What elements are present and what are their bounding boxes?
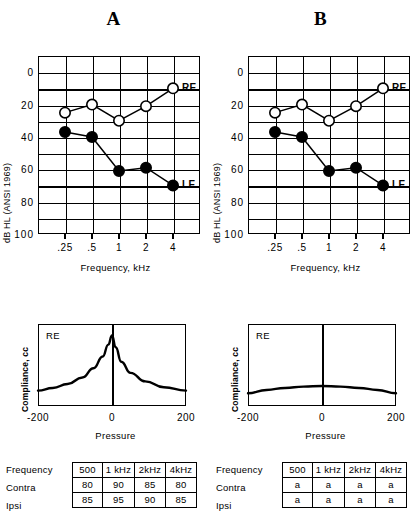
audiogram-data-layer (0, 46, 209, 276)
audiogram-point-le (351, 162, 361, 172)
reflex-row-label: Contra (6, 482, 36, 493)
reflex-cell-ipsi: 95 (103, 493, 135, 508)
audiogram-point-le (87, 132, 97, 142)
reflex-header-cell: 500 (283, 463, 313, 478)
audiogram-point-re (324, 116, 334, 126)
reflex-cell-ipsi: a (313, 493, 345, 508)
reflex-cell-contra: 85 (135, 478, 166, 493)
reflex-row-label: Ipsi (216, 500, 232, 511)
audiogram-point-le (141, 162, 151, 172)
reflex-cell-contra: 80 (73, 478, 103, 493)
reflex-header-cell: 4kHz (376, 463, 407, 478)
audiogram-point-re (378, 83, 388, 93)
audiogram-point-re (168, 83, 178, 93)
audiogram-point-le (297, 132, 307, 142)
tympanogram-x-tick: 0 (319, 412, 325, 423)
reflex-table-body: 5001 kHz2kHz4kHz8090858085959085 (73, 463, 197, 508)
reflex-cell-contra: a (345, 478, 376, 493)
panel-a: AdB HL (ANSI 1969)020406080100.25.5124Fr… (0, 0, 209, 529)
reflex-table: 5001 kHz2kHz4kHzaaaaaaaa (282, 462, 407, 508)
audiogram-point-le (114, 166, 124, 176)
audiogram-point-re (351, 101, 361, 111)
tympanogram-x-axis-label: Pressure (0, 430, 209, 441)
reflex-cell-contra: a (283, 478, 313, 493)
panel-title-b: B (210, 8, 419, 30)
audiogram-data-layer (210, 46, 419, 276)
reflex-table-row: 85959085 (73, 493, 197, 508)
audiogram-re-label: RE (392, 82, 407, 93)
reflex-table-a: FrequencyContraIpsi5001 kHz2kHz4kHz80908… (0, 462, 209, 524)
tympanogram-x-tick: 200 (177, 412, 195, 423)
reflex-cell-ipsi: a (376, 493, 407, 508)
reflex-header-cell: 4kHz (166, 463, 197, 478)
audiogram-point-re (270, 107, 280, 117)
tympanogram-curve (38, 335, 186, 390)
audiogram-point-re (141, 101, 151, 111)
tympanogram-x-axis-label: Pressure (210, 430, 419, 441)
reflex-header-cell: 1 kHz (103, 463, 135, 478)
reflex-cell-ipsi: 85 (73, 493, 103, 508)
figure-root: AdB HL (ANSI 1969)020406080100.25.5124Fr… (0, 0, 419, 529)
reflex-row-label: Ipsi (6, 500, 22, 511)
reflex-table-header-row: 5001 kHz2kHz4kHz (73, 463, 197, 478)
reflex-table-row: aaaa (283, 478, 407, 493)
tympanogram-x-tick: -200 (27, 412, 49, 423)
audiogram-point-le (378, 180, 388, 190)
audiogram-line-le (275, 132, 383, 185)
reflex-cell-contra: a (376, 478, 407, 493)
panel-title-a: A (0, 8, 209, 30)
reflex-cell-ipsi: 90 (135, 493, 166, 508)
reflex-header-cell: 500 (73, 463, 103, 478)
reflex-header-cell: 2kHz (135, 463, 166, 478)
tympanogram-x-tick: -200 (237, 412, 259, 423)
audiogram-a: dB HL (ANSI 1969)020406080100.25.5124Fre… (0, 46, 209, 276)
reflex-cell-contra: a (313, 478, 345, 493)
reflex-row-label: Contra (216, 482, 246, 493)
audiogram-point-le (324, 166, 334, 176)
audiogram-point-le (168, 180, 178, 190)
audiogram-point-le (60, 127, 70, 137)
reflex-table-row: aaaa (283, 493, 407, 508)
reflex-row-label: Frequency (216, 464, 263, 475)
audiogram-re-label: RE (182, 82, 197, 93)
audiogram-point-re (297, 99, 307, 109)
reflex-row-label: Frequency (6, 464, 53, 475)
audiogram-point-le (270, 127, 280, 137)
tympanogram-x-tick: 0 (109, 412, 115, 423)
reflex-cell-ipsi: 85 (166, 493, 197, 508)
reflex-cell-contra: 80 (166, 478, 197, 493)
audiogram-point-re (114, 116, 124, 126)
reflex-cell-contra: 90 (103, 478, 135, 493)
panel-b: BdB HL (ANSI 1969)020406080100.25.5124Fr… (210, 0, 419, 529)
reflex-table-body: 5001 kHz2kHz4kHzaaaaaaaa (283, 463, 407, 508)
reflex-cell-ipsi: a (283, 493, 313, 508)
reflex-cell-ipsi: a (345, 493, 376, 508)
audiogram-point-re (60, 107, 70, 117)
reflex-header-cell: 2kHz (345, 463, 376, 478)
audiogram-le-label: LE (392, 179, 405, 190)
reflex-header-cell: 1 kHz (313, 463, 345, 478)
tympanogram-curve (248, 386, 396, 393)
audiogram-le-label: LE (182, 179, 195, 190)
reflex-table: 5001 kHz2kHz4kHz8090858085959085 (72, 462, 197, 508)
reflex-table-b: FrequencyContraIpsi5001 kHz2kHz4kHzaaaaa… (210, 462, 419, 524)
reflex-table-header-row: 5001 kHz2kHz4kHz (283, 463, 407, 478)
audiogram-point-re (87, 99, 97, 109)
tympanogram-x-tick: 200 (387, 412, 405, 423)
audiogram-line-le (65, 132, 173, 185)
tympanogram-b: Compliance, ccRE-2000200Pressure (210, 318, 419, 436)
tympanogram-a: Compliance, ccRE-2000200Pressure (0, 318, 209, 436)
reflex-table-row: 80908580 (73, 478, 197, 493)
audiogram-b: dB HL (ANSI 1969)020406080100.25.5124Fre… (210, 46, 419, 276)
